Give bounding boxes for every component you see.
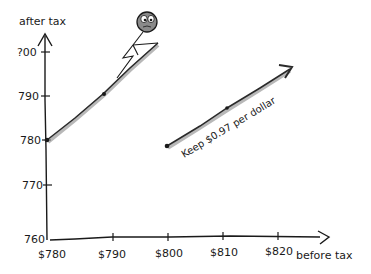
x-tick-label: $810	[210, 246, 238, 259]
y-tick-label: 760	[24, 233, 45, 246]
data-point	[45, 138, 50, 143]
data-point	[225, 106, 229, 110]
chart-container: after tax ?00 790 780 770 760 $780 $790 …	[0, 0, 371, 274]
y-tick-label: 780	[20, 134, 41, 147]
chart-svg: after tax ?00 790 780 770 760 $780 $790 …	[0, 0, 371, 274]
y-tick-label: ?00	[17, 46, 37, 59]
y-tick-label: 770	[22, 179, 43, 192]
y-axis-title: after tax	[19, 15, 67, 28]
series-left-line	[45, 43, 158, 142]
x-tick-label: $780	[38, 248, 66, 261]
annotation-keep-per-dollar: Keep $0.97 per dollar	[179, 94, 278, 159]
x-tick-label: $790	[98, 248, 126, 261]
x-tick-label: $820	[265, 245, 293, 258]
data-point	[165, 144, 170, 149]
x-axis-title: before tax	[296, 249, 353, 262]
x-axis: $780 $790 $800 $810 $820 before tax	[38, 231, 353, 262]
data-point	[102, 92, 106, 96]
x-tick-label: $800	[155, 247, 183, 260]
y-tick-label: 790	[18, 90, 39, 103]
stick-figure-icon	[117, 12, 158, 78]
